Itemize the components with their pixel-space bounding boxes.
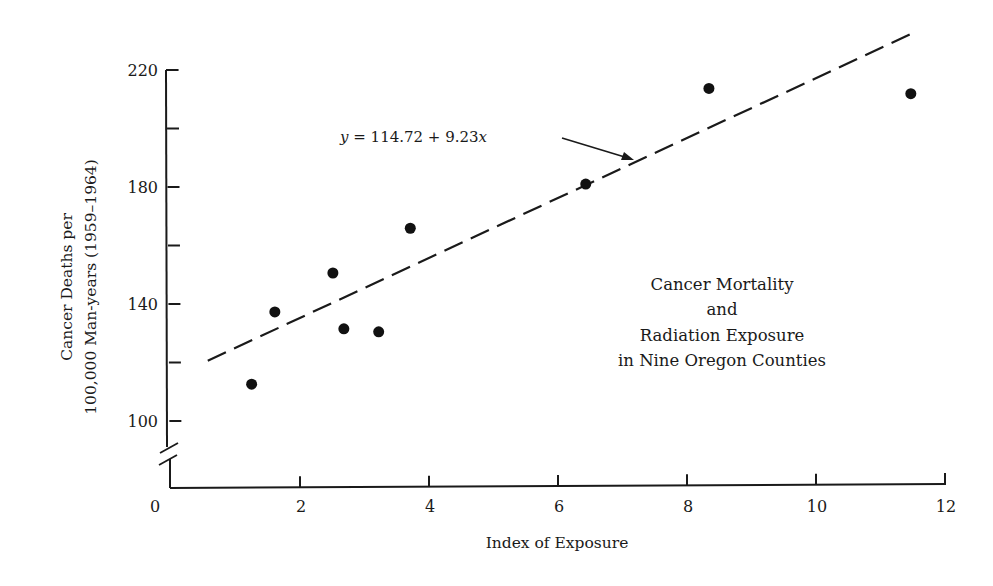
x-tick-label: 6 bbox=[554, 497, 564, 516]
x-tick-label: 10 bbox=[807, 497, 827, 516]
y-axis-title-line-2: 100,000 Man-years (1959–1964) bbox=[82, 159, 100, 415]
x-axis: 024681012 bbox=[150, 473, 956, 516]
chart-title-line: Cancer Mortality bbox=[651, 275, 795, 294]
data-point bbox=[269, 306, 280, 317]
chart-title: Cancer MortalityandRadiation Exposurein … bbox=[618, 275, 826, 370]
data-point bbox=[405, 223, 416, 234]
x-tick-label: 4 bbox=[425, 497, 435, 516]
data-point bbox=[338, 323, 349, 334]
data-point bbox=[373, 326, 384, 337]
data-point bbox=[703, 83, 714, 94]
x-tick-label: 2 bbox=[296, 497, 306, 516]
data-point bbox=[327, 267, 338, 278]
y-tick-label: 140 bbox=[127, 295, 158, 314]
scatter-chart: 100140180220 024681012 y = 114.72 + 9.23… bbox=[0, 0, 993, 586]
equation-arrow bbox=[562, 138, 634, 160]
data-point bbox=[580, 179, 591, 190]
y-tick-label: 220 bbox=[127, 61, 158, 80]
regression-equation: y = 114.72 + 9.23x bbox=[339, 128, 488, 146]
data-point bbox=[246, 379, 257, 390]
y-axis: 100140180220 bbox=[127, 61, 181, 488]
regression-line bbox=[208, 33, 913, 361]
chart-title-line: in Nine Oregon Counties bbox=[618, 351, 826, 370]
y-tick-label: 180 bbox=[127, 178, 158, 197]
data-point bbox=[905, 88, 916, 99]
chart-title-line: and bbox=[706, 300, 737, 319]
x-tick-label: 12 bbox=[936, 497, 956, 516]
y-axis-title-line-1: Cancer Deaths per bbox=[58, 213, 76, 361]
x-axis-title: Index of Exposure bbox=[486, 534, 629, 552]
chart-title-line: Radiation Exposure bbox=[640, 326, 805, 345]
x-tick-label: 8 bbox=[683, 497, 693, 516]
y-tick-label: 100 bbox=[127, 412, 158, 431]
y-axis-title: Cancer Deaths per 100,000 Man-years (195… bbox=[58, 159, 100, 415]
x-tick-label: 0 bbox=[150, 497, 160, 516]
